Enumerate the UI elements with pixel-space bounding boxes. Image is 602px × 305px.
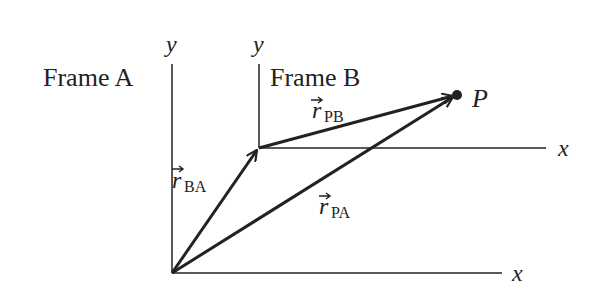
- r-pa-subscript: PA: [331, 204, 350, 221]
- label-r-ba: r BA: [172, 166, 207, 195]
- point-p-label: P: [471, 84, 488, 113]
- frame-b-x-label: x: [557, 135, 569, 161]
- vector-r-pa: [172, 97, 453, 273]
- frame-a-y-label: y: [164, 31, 177, 57]
- frame-b-y-label: y: [251, 31, 264, 57]
- r-pa-symbol: r: [319, 193, 329, 219]
- frames-diagram: y y x x Frame A Frame B P r PB r BA r PA: [0, 0, 602, 305]
- r-ba-subscript: BA: [184, 178, 207, 195]
- label-r-pa: r PA: [319, 193, 350, 221]
- frame-a-title: Frame A: [43, 63, 133, 92]
- vector-r-ba: [172, 150, 257, 273]
- frame-b-title: Frame B: [270, 63, 360, 92]
- r-pb-subscript: PB: [324, 108, 344, 125]
- vector-r-pb: [259, 96, 453, 148]
- label-r-pb: r PB: [311, 97, 344, 125]
- frame-a-x-label: x: [511, 260, 523, 286]
- point-p-dot: [452, 90, 462, 100]
